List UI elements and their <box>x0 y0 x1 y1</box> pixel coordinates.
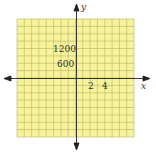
coordinate-grid <box>0 0 156 154</box>
x-axis-label: x <box>141 82 146 91</box>
y-axis-up-arrow-icon <box>74 4 79 11</box>
x-tick-2: 2 <box>88 82 94 91</box>
y-tick-1200: 1200 <box>53 45 76 54</box>
x-tick-4: 4 <box>102 82 108 91</box>
x-axis-left-arrow-icon <box>4 76 11 81</box>
y-axis-label: y <box>81 3 86 12</box>
y-axis-down-arrow-icon <box>74 143 79 150</box>
y-tick-600: 600 <box>57 60 74 69</box>
